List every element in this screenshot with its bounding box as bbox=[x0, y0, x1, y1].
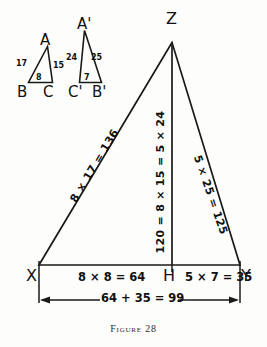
figure-caption: Figure 28 bbox=[0, 323, 267, 334]
label-side-ab-17: 17 bbox=[16, 60, 27, 68]
label-vertex-x: X bbox=[26, 268, 37, 284]
label-side-c-prime-b-prime-7: 7 bbox=[84, 74, 90, 82]
big-triangle-xyz bbox=[39, 43, 240, 266]
figure-28-diagram: A B C 17 15 8 A' C' B' 24 25 7 Z X Y H 8… bbox=[0, 0, 267, 347]
big-triangle-outline bbox=[39, 43, 240, 266]
label-side-ac-15: 15 bbox=[53, 62, 64, 70]
label-side-a-prime-b-prime-25: 25 bbox=[91, 54, 102, 62]
label-base-xh-product: 8 × 8 = 64 bbox=[78, 272, 145, 284]
label-base-hy-product: 5 × 7 = 35 bbox=[185, 272, 252, 284]
label-vertex-c: C bbox=[43, 85, 53, 100]
label-side-bc-8: 8 bbox=[36, 74, 42, 82]
label-altitude-zh-product: 120 = 8 × 15 = 5 × 24 bbox=[155, 111, 166, 254]
label-vertex-a: A bbox=[40, 33, 50, 48]
label-vertex-b: B bbox=[17, 85, 27, 100]
arrowhead-left-icon bbox=[40, 297, 50, 304]
label-overall-dimension: 64 + 35 = 99 bbox=[101, 293, 184, 305]
label-vertex-b-prime: B' bbox=[92, 85, 106, 100]
arrowhead-right-icon bbox=[229, 297, 239, 304]
label-vertex-h: H bbox=[163, 268, 175, 284]
label-side-a-prime-c-prime-24: 24 bbox=[66, 54, 77, 62]
label-vertex-z: Z bbox=[166, 11, 177, 27]
label-vertex-c-prime: C' bbox=[68, 85, 83, 100]
label-vertex-a-prime: A' bbox=[77, 17, 91, 32]
